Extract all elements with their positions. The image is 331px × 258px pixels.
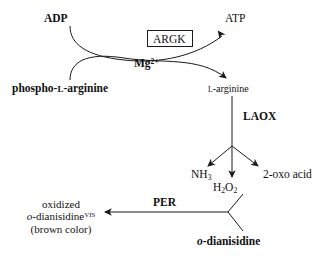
magnesium-cofactor-label: Mg2+ [134, 57, 159, 70]
arrow-branch-to-oxo-acid [232, 146, 258, 166]
oxidized-line-3: (brown color) [18, 223, 104, 235]
atp-label: ATP [225, 12, 245, 25]
arrow-branch-to-ammonia [208, 146, 232, 166]
arrow-adp-to-atp [70, 26, 222, 61]
line-odianisidine-to-per-junction [228, 212, 243, 231]
phospho-prefix: phospho- [12, 82, 57, 94]
ammonia-subscript: 3 [208, 173, 212, 182]
adp-label: ADP [44, 12, 68, 25]
per-label: PER [153, 196, 176, 209]
pathway-diagram: ARGK ADP ATP Mg2+ phospho-L-arginine L-a… [0, 0, 331, 258]
l-arginine-suffix: -arginine [213, 83, 249, 94]
oxidized-line-2: o-dianisidineVIS [18, 210, 104, 222]
hydrogen-peroxide-subscript-2: 2 [233, 186, 237, 195]
argk-label: ARGK [153, 33, 186, 46]
oxo-acid-label: 2-oxo acid [263, 168, 312, 181]
hydrogen-peroxide-label: H2O2 [213, 181, 237, 195]
l-arginine-label: L-arginine [208, 83, 249, 95]
magnesium-symbol: Mg [134, 57, 151, 69]
laox-label: LAOX [243, 110, 276, 123]
odianisidine-label: o-dianisidine [197, 235, 260, 248]
line-hydrogen-peroxide-to-per-junction [228, 194, 243, 212]
oxidized-line-1: oxidized [18, 198, 104, 210]
phospho-l-arginine-label: phospho-L-arginine [12, 82, 108, 95]
ammonia-label: NH3 [191, 168, 211, 182]
oxidized-vis-superscript: VIS [84, 211, 95, 218]
ammonia-formula: NH [191, 168, 208, 180]
phospho-suffix: -arginine [63, 82, 108, 94]
odianisidine-rest: -dianisidine [203, 235, 261, 247]
magnesium-charge: 2+ [151, 57, 159, 66]
oxidized-rest: -dianisidine [32, 210, 84, 222]
oxidized-odianisidine-label: oxidized o-dianisidineVIS (brown color) [18, 198, 104, 235]
